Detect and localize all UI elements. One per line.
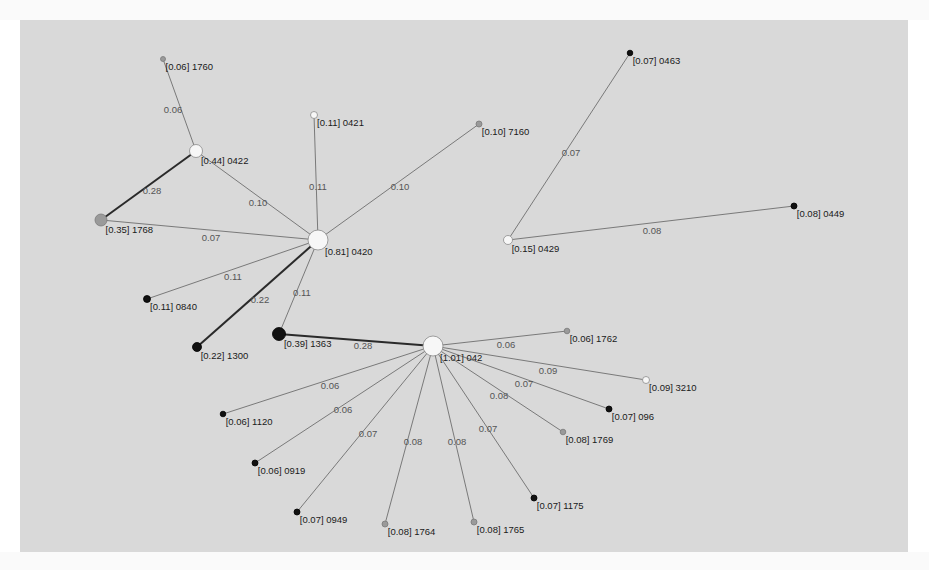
node-label-0463: [0.07] 0463 <box>633 55 681 66</box>
edge-weight-label: 0.06 <box>164 104 183 115</box>
node-label-0449: [0.08] 0449 <box>797 208 845 219</box>
node-label-3210: [0.09] 3210 <box>649 382 697 393</box>
node-label-0420: [0.81] 0420 <box>325 246 373 257</box>
edge-weight-label: 0.08 <box>404 436 423 447</box>
node-label-1363: [0.39] 1363 <box>284 338 332 349</box>
node-label-1762: [0.06] 1762 <box>570 333 618 344</box>
edge-weight-label: 0.07 <box>562 147 581 158</box>
node-label-1764: [0.08] 1764 <box>388 526 436 537</box>
edge-weight-label: 0.08 <box>448 436 467 447</box>
edge-weight-label: 0.07 <box>359 428 378 439</box>
edge-weight-label: 0.28 <box>143 185 162 196</box>
edge-weight-label: 0.11 <box>293 287 311 298</box>
edge-042-1175 <box>433 346 534 498</box>
edge-weight-label: 0.10 <box>391 181 410 192</box>
node-label-1300: [0.22] 1300 <box>201 350 249 361</box>
edge-weight-label: 0.10 <box>249 197 268 208</box>
edge-0420-0421 <box>314 115 318 240</box>
edges-layer <box>101 53 794 524</box>
nodes-layer <box>95 50 797 527</box>
edge-weight-label: 0.06 <box>497 339 516 350</box>
node-label-0422: [0.44] 0422 <box>201 155 249 166</box>
edge-weight-label: 0.08 <box>490 390 509 401</box>
node-label-1768: [0.35] 1768 <box>106 224 154 235</box>
edge-weight-label: 0.06 <box>334 404 353 415</box>
edge-weight-label: 0.22 <box>251 294 270 305</box>
edge-042-1765 <box>433 346 474 522</box>
node-label-1175: [0.07] 1175 <box>537 500 584 511</box>
edge-weight-label: 0.06 <box>321 380 340 391</box>
edge-weight-label: 0.07 <box>202 232 221 243</box>
node-label-1120: [0.06] 1120 <box>226 416 273 427</box>
node-label-1760: [0.06] 1760 <box>166 61 214 72</box>
node-label-0840: [0.11] 0840 <box>150 301 197 312</box>
node-label-7160: [0.10] 7160 <box>482 126 530 137</box>
node-label-0919: [0.06] 0919 <box>258 465 306 476</box>
edge-weight-label: 0.11 <box>309 181 327 192</box>
node-label-042: [1.01] 042 <box>440 352 482 363</box>
node-label-1765: [0.08] 1765 <box>477 524 525 535</box>
node-label-096: [0.07] 096 <box>612 411 654 422</box>
node-label-0429: [0.15] 0429 <box>512 243 560 254</box>
edge-weight-label: 0.07 <box>479 423 498 434</box>
edge-weight-label: 0.08 <box>643 225 662 236</box>
node-label-0949: [0.07] 0949 <box>300 514 348 525</box>
edge-weight-label: 0.09 <box>539 365 558 376</box>
network-graph: 0.060.280.100.110.100.070.110.220.110.07… <box>0 0 929 570</box>
edge-weight-label: 0.28 <box>354 340 373 351</box>
edge-weight-label: 0.11 <box>224 271 242 282</box>
edge-weight-label: 0.07 <box>515 378 534 389</box>
node-label-0421: [0.11] 0421 <box>317 117 364 128</box>
node-label-1769: [0.08] 1769 <box>566 434 614 445</box>
